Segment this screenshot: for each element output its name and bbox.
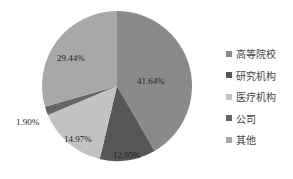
legend-item-other: 其他 [226,129,276,151]
legend-swatch [226,72,232,78]
legend-item-company: 公司 [226,108,276,130]
legend-item-research: 研究机构 [226,65,276,87]
legend-item-universities: 高等院校 [226,43,276,65]
label-medical: 14.97% [64,134,92,144]
legend-item-medical: 医疗机构 [226,86,276,108]
legend: 高等院校 研究机构 医疗机构 公司 其他 [226,43,276,151]
legend-swatch [226,51,232,57]
legend-swatch [226,137,232,143]
label-other: 29.44% [57,53,85,63]
label-universities: 41.64% [137,76,165,86]
label-research: 12.05% [113,150,141,160]
legend-swatch [226,115,232,121]
label-company: 1.90% [16,117,39,127]
legend-swatch [226,94,232,100]
